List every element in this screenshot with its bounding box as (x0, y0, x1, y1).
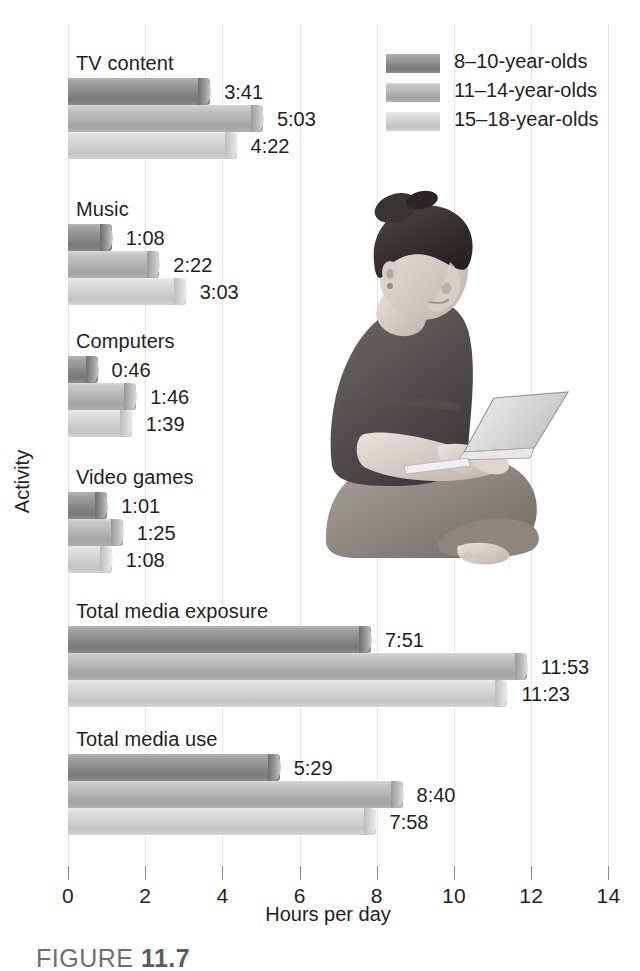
bar-music-series-1 (68, 251, 159, 278)
bar-computers-series-0 (68, 356, 98, 383)
x-tick-14 (608, 866, 609, 880)
group-label-tv-content: TV content (76, 52, 174, 75)
legend-label-11-14: 11–14-year-olds (454, 79, 597, 102)
bar-end-cap (225, 132, 238, 159)
bar-value-total-media-exposure-series-1: 11:53 (541, 656, 590, 679)
bar-total-media-exposure-series-2 (68, 680, 507, 707)
bar-value-video-games-series-2: 1:08 (126, 549, 165, 572)
bar-value-music-series-2: 3:03 (200, 281, 239, 304)
bar-end-cap (198, 78, 211, 105)
group-label-total-media-exposure: Total media exposure (76, 600, 268, 623)
bar-value-music-series-1: 2:22 (173, 254, 212, 277)
legend-swatch-15-18 (386, 112, 440, 131)
bar-video-games-series-2 (68, 546, 112, 573)
bar-value-tv-content-series-0: 3:41 (224, 81, 263, 104)
bar-computers-series-2 (68, 410, 132, 437)
bar-music-series-0 (68, 224, 112, 251)
bar-value-total-media-use-series-1: 8:40 (417, 784, 456, 807)
legend-swatch-8-10 (386, 54, 440, 73)
x-tick-4 (222, 866, 223, 880)
x-tick-2 (145, 866, 146, 880)
legend-label-8-10: 8–10-year-olds (454, 50, 587, 73)
bar-end-cap (95, 492, 108, 519)
bar-value-computers-series-2: 1:39 (146, 413, 185, 436)
bar-end-cap (251, 105, 264, 132)
x-tick-10 (454, 866, 455, 880)
bar-value-total-media-use-series-0: 5:29 (294, 757, 333, 780)
legend-label-15-18: 15–18-year-olds (454, 108, 599, 131)
bar-end-cap (100, 546, 113, 573)
figure-caption: FIGURE 11.7 (36, 944, 190, 971)
bar-end-cap (391, 781, 404, 808)
x-tick-12 (531, 866, 532, 880)
bar-video-games-series-0 (68, 492, 107, 519)
x-tick-8 (377, 866, 378, 880)
group-label-total-media-use: Total media use (76, 728, 218, 751)
bar-end-cap (359, 626, 372, 653)
bar-computers-series-1 (68, 383, 136, 410)
bar-total-media-use-series-1 (68, 781, 403, 808)
bar-value-video-games-series-1: 1:25 (137, 522, 176, 545)
bar-value-total-media-exposure-series-0: 7:51 (385, 629, 424, 652)
bar-total-media-exposure-series-1 (68, 653, 527, 680)
group-label-music: Music (76, 198, 129, 221)
group-label-video-games: Video games (76, 466, 193, 489)
bar-end-cap (174, 278, 187, 305)
bar-tv-content-series-1 (68, 105, 263, 132)
bar-total-media-exposure-series-0 (68, 626, 371, 653)
bar-value-tv-content-series-2: 4:22 (251, 135, 290, 158)
bar-end-cap (111, 519, 124, 546)
bar-value-computers-series-1: 1:46 (150, 386, 189, 409)
legend-swatch-11-14 (386, 83, 440, 102)
bar-value-total-media-use-series-2: 7:58 (390, 811, 429, 834)
x-tick-0 (68, 866, 69, 880)
bar-end-cap (364, 808, 377, 835)
x-tick-6 (300, 866, 301, 880)
bar-end-cap (515, 653, 528, 680)
bar-total-media-use-series-2 (68, 808, 376, 835)
bar-music-series-2 (68, 278, 186, 305)
bar-value-computers-series-0: 0:46 (112, 359, 151, 382)
y-axis-title: Activity (11, 432, 34, 532)
bar-total-media-use-series-0 (68, 754, 280, 781)
bar-end-cap (100, 224, 113, 251)
bar-tv-content-series-0 (68, 78, 210, 105)
bar-value-video-games-series-0: 1:01 (121, 495, 160, 518)
group-label-computers: Computers (76, 330, 175, 353)
bar-end-cap (120, 410, 133, 437)
bar-value-music-series-0: 1:08 (126, 227, 165, 250)
caption-word: FIGURE (36, 944, 133, 971)
x-axis-title: Hours per day (8, 903, 640, 926)
bar-value-tv-content-series-1: 5:03 (277, 108, 316, 131)
bar-end-cap (495, 680, 508, 707)
bar-tv-content-series-2 (68, 132, 237, 159)
bar-end-cap (268, 754, 281, 781)
bar-value-total-media-exposure-series-2: 11:23 (521, 683, 570, 706)
bar-end-cap (86, 356, 99, 383)
caption-number: 11.7 (141, 944, 190, 971)
bar-video-games-series-1 (68, 519, 123, 546)
bar-end-cap (147, 251, 160, 278)
photo-woman-with-laptop (318, 190, 618, 590)
bar-end-cap (124, 383, 137, 410)
gridline-6 (300, 24, 301, 866)
